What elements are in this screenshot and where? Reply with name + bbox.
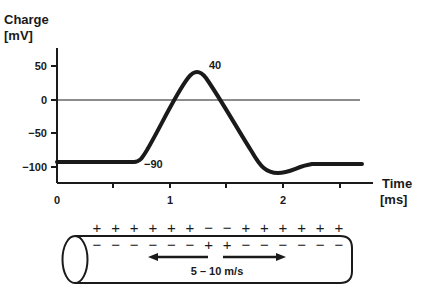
y-axis-title-line1: Charge <box>4 12 49 27</box>
x-tick-label-0: 0 <box>54 194 60 206</box>
outer-sign: + <box>167 219 176 236</box>
inner-charge-signs: − − − − − − + + − − − − − − <box>93 236 344 253</box>
x-tick-label-2: 2 <box>280 194 286 206</box>
outer-sign: − <box>223 219 232 236</box>
inner-sign: + <box>223 236 232 253</box>
x-axis-title-line2: [ms] <box>380 192 407 207</box>
x-tick-label-1: 1 <box>167 194 173 206</box>
inner-sign: − <box>297 236 306 253</box>
action-potential-diagram: Charge [mV] 50 0 −50 −100 0 1 2 Time [ms… <box>0 0 425 298</box>
outer-sign: + <box>241 219 250 236</box>
y-tick-label-minus50: −50 <box>28 127 47 139</box>
peak-value-label: 40 <box>209 59 221 71</box>
resting-value-label: −90 <box>144 158 163 170</box>
outer-sign: + <box>93 219 102 236</box>
arrow-left-icon <box>148 253 158 261</box>
outer-sign: + <box>297 219 306 236</box>
inner-sign: − <box>316 236 325 253</box>
inner-sign: − <box>93 236 102 253</box>
inner-sign: − <box>260 236 269 253</box>
y-tick-label-50: 50 <box>35 60 47 72</box>
outer-sign: + <box>186 219 195 236</box>
inner-sign: − <box>148 236 157 253</box>
inner-sign: − <box>186 236 195 253</box>
outer-sign: + <box>279 219 288 236</box>
inner-sign: − <box>334 236 343 253</box>
propagation-arrows <box>148 253 286 261</box>
y-tick-label-minus100: −100 <box>22 161 47 173</box>
arrow-right-icon <box>276 253 286 261</box>
outer-sign: + <box>334 219 343 236</box>
y-tick-label-0: 0 <box>41 94 47 106</box>
outer-charge-signs: + + + + + + − − + + + + + + <box>93 219 344 236</box>
outer-sign: + <box>130 219 139 236</box>
inner-sign: − <box>130 236 139 253</box>
x-axis-title-line1: Time <box>382 176 412 191</box>
inner-sign: − <box>279 236 288 253</box>
inner-sign: − <box>167 236 176 253</box>
outer-sign: + <box>316 219 325 236</box>
outer-sign: + <box>260 219 269 236</box>
inner-sign: + <box>204 236 213 253</box>
conduction-speed-label: 5 – 10 m/s <box>191 265 244 277</box>
inner-sign: − <box>111 236 120 253</box>
outer-sign: + <box>148 219 157 236</box>
inner-sign: − <box>241 236 250 253</box>
y-axis-title-line2: [mV] <box>4 28 33 43</box>
axon-end-ellipse <box>63 236 88 283</box>
action-potential-curve <box>57 72 362 173</box>
outer-sign: + <box>111 219 120 236</box>
outer-sign: − <box>204 219 213 236</box>
